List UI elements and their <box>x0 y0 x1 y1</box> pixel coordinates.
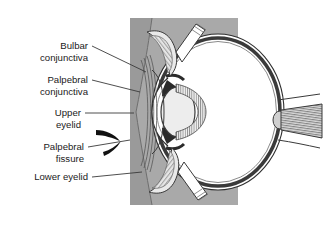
label-bulbar-conjunctiva-line1: Bulbar <box>60 40 89 51</box>
label-lower-eyelid: Lower eyelid <box>34 171 88 182</box>
label-palpebral-fissure-line1: Palpebral <box>43 141 84 152</box>
label-palpebral-conjunctiva-line1: Palpebral <box>47 74 88 85</box>
label-upper-eyelid-line2: eyelid <box>56 119 81 130</box>
label-bulbar-conjunctiva-line2: conjunctiva <box>40 52 89 63</box>
label-upper-eyelid-line1: Upper <box>55 107 82 118</box>
eye-anatomy-diagram: Bulbar conjunctiva Palpebral conjunctiva… <box>0 0 327 226</box>
label-palpebral-fissure-line2: fissure <box>56 153 84 164</box>
label-palpebral-conjunctiva-line2: conjunctiva <box>40 86 89 97</box>
